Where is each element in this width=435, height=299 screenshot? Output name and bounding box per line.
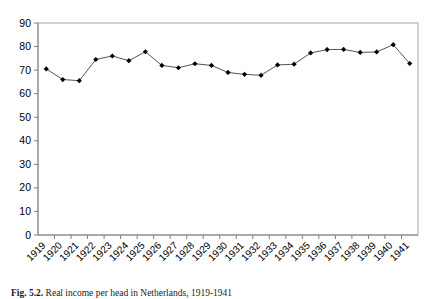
y-tick-label: 10 [19, 205, 31, 217]
figure-caption-number: Fig. 5.2. [11, 288, 43, 298]
x-tick-marks [55, 235, 402, 239]
y-tick-label: 90 [19, 17, 31, 29]
x-tick-label: 1941 [388, 239, 412, 263]
line-chart-svg: 0102030405060708090 19191920192119221923… [0, 0, 435, 284]
y-tick-label: 0 [25, 229, 31, 241]
y-tick-label: 60 [19, 87, 31, 99]
figure-caption-text: Real income per head in Netherlands, 191… [46, 288, 233, 298]
y-tick-label: 50 [19, 111, 31, 123]
y-tick-labels: 0102030405060708090 [19, 17, 31, 241]
y-tick-label: 80 [19, 40, 31, 52]
y-tick-label: 40 [19, 134, 31, 146]
figure-caption: Fig. 5.2. Real income per head in Nether… [11, 288, 431, 299]
y-tick-label: 30 [19, 158, 31, 170]
chart-area: 0102030405060708090 19191920192119221923… [0, 0, 435, 284]
y-tick-label: 20 [19, 181, 31, 193]
x-tick-labels: 1919192019211922192319241925192619271928… [24, 239, 411, 263]
y-tick-marks [34, 23, 38, 235]
plot-border [38, 23, 418, 235]
y-tick-label: 70 [19, 64, 31, 76]
